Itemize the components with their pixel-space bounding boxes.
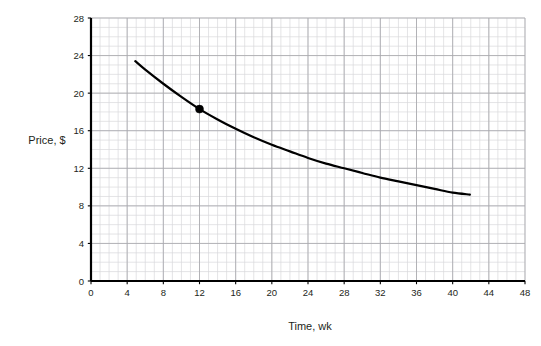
marked-point-marker <box>196 105 204 113</box>
y-axis-tick-labels: 0481216202428 <box>73 13 84 287</box>
x-tick-label: 36 <box>411 287 422 298</box>
y-tick-label: 20 <box>73 88 84 99</box>
y-tick-label: 28 <box>73 13 84 24</box>
x-tick-label: 40 <box>447 287 458 298</box>
x-tick-label: 44 <box>484 287 495 298</box>
y-axis-title: Price, $ <box>28 134 65 146</box>
y-tick-label: 8 <box>79 200 84 211</box>
x-tick-label: 48 <box>520 287 531 298</box>
x-axis-tick-labels: 04812162024283236404448 <box>88 287 530 298</box>
axis-tick-marks <box>88 18 525 284</box>
y-tick-label: 4 <box>79 238 84 249</box>
y-tick-label: 16 <box>73 125 84 136</box>
x-tick-label: 0 <box>88 287 93 298</box>
y-tick-label: 0 <box>79 276 84 287</box>
x-axis-title: Time, wk <box>288 320 332 332</box>
x-tick-label: 28 <box>339 287 350 298</box>
data-point-markers <box>196 105 204 113</box>
y-tick-label: 24 <box>73 50 84 61</box>
chart-figure: 04812162024283236404448 0481216202428 Ti… <box>0 0 541 346</box>
x-tick-label: 4 <box>125 287 130 298</box>
x-tick-label: 8 <box>161 287 166 298</box>
x-tick-label: 32 <box>375 287 386 298</box>
x-tick-label: 20 <box>267 287 278 298</box>
x-tick-label: 16 <box>230 287 241 298</box>
series-line <box>135 61 470 194</box>
x-tick-label: 12 <box>194 287 205 298</box>
y-tick-label: 12 <box>73 163 84 174</box>
data-series-group <box>135 61 470 194</box>
x-tick-label: 24 <box>303 287 314 298</box>
chart-canvas: 04812162024283236404448 0481216202428 Ti… <box>0 0 541 346</box>
